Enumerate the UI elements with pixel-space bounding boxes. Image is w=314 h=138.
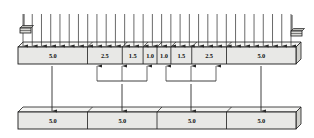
diagram-canvas: 5.02.51.51.01.01.52.55.05.05.05.05.0 [0,0,314,138]
upper-beam-segment-label: 2.5 [101,53,109,59]
lower-beam-segment-label: 5.0 [188,118,196,124]
upper-beam-segment-label: 1.0 [146,53,154,59]
lower-beam-segment-label: 5.0 [118,118,126,124]
upper-beam-segment-label: 5.0 [257,53,265,59]
lower-beam-segment-label: 5.0 [257,118,265,124]
upper-beam-segment-label: 5.0 [49,53,57,59]
diagram-svg [0,0,314,138]
lower-beam-segment-label: 5.0 [49,118,57,124]
upper-beam-segment-label: 1.0 [160,53,168,59]
upper-beam-segment-label: 2.5 [205,53,213,59]
upper-beam-segment-label: 1.5 [177,53,185,59]
upper-beam-segment-label: 1.5 [129,53,137,59]
